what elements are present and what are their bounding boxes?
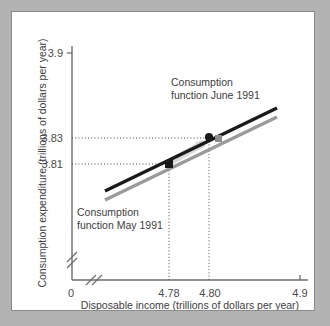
data-point-june-4-80-3-83 [205,133,213,141]
x-tick-label-4-80: 4.80 [199,287,220,299]
line-consumption-function-june-1991 [105,108,277,191]
annotation-june-line-2: function June 1991 [171,89,260,101]
x-tick-label-4-78: 4.78 [158,287,179,299]
consumption-function-chart: 3.9 3.83 3.81 0 4.78 4.80 4.9 Disposable… [12,12,314,310]
data-point-may-shadow-4-80 [215,135,222,142]
annotation-may-1991: Consumption function May 1991 [77,206,163,231]
data-point-may-4-78-3-81 [165,160,173,168]
annotation-june-1991: Consumption function June 1991 [171,76,260,101]
x-origin-label: 0 [68,287,74,299]
line-consumption-function-may-1991 [105,117,277,200]
x-axis-title: Disposable income (trillions of dollars … [81,299,299,310]
y-tick-label-3-9: 3.9 [48,47,63,59]
x-tick-label-4-9: 4.9 [292,287,307,299]
annotation-june-line-1: Consumption [171,76,233,88]
annotation-may-line-2: function May 1991 [77,219,163,231]
figure-panel: 3.9 3.83 3.81 0 4.78 4.80 4.9 Disposable… [11,11,315,311]
annotation-may-line-1: Consumption [77,206,139,218]
y-axis-title: Consumption expenditure (trillions of do… [36,38,48,287]
